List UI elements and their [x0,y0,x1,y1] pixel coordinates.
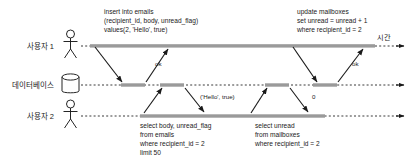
actor-stick-figure-icon-user1 [64,30,78,58]
activation-bar-user2 [140,114,325,117]
activation-bar-database-3 [265,83,289,86]
participant-label-database: 데이터베이스 [12,80,54,90]
participant-label-user2: 사용자 2 [27,112,54,121]
activation-bar-database-2 [160,83,184,86]
note-insert-line-2: (recipient_id, body, unread_flag) [104,17,198,25]
note-select-emails: select body, unread_flag from emails whe… [139,122,212,156]
message-label-select-emails-response: ('Hello', true) [200,93,235,100]
note-select-emails-line-4: limit 50 [140,149,161,156]
message-arrow-insert-request [95,47,122,82]
message-arrow-select-emails-request [144,88,162,113]
note-select-emails-line-2: from emails [140,131,175,138]
sequence-diagram: 사용자 1 데이터베이스 사용자 2 [0,0,417,163]
time-axis-label: 시간 [377,33,391,42]
note-insert-into-emails: insert into emails (recipient_id, body, … [104,8,198,34]
note-select-emails-line-3: where recipient_id = 2 [139,140,205,148]
database-cylinder-icon [62,74,79,93]
note-select-emails-line-1: select body, unread_flag [140,122,212,130]
message-arrow-select-mailboxes-request [251,88,267,113]
message-label-insert-response: ok [155,60,162,67]
note-insert-line-1: insert into emails [104,8,154,15]
note-select-mailboxes-line-3: where recipient_id = 2 [254,140,320,148]
activation-bar-database-1 [121,83,145,86]
participant-label-user1: 사용자 1 [27,42,54,51]
message-label-select-mailboxes-response: 0 [312,93,316,100]
note-select-mailboxes: select unread from mailboxes where recip… [254,122,320,148]
note-update-line-3: where recipient_id = 2 [296,26,362,34]
activation-bar-user1 [90,44,375,47]
actor-stick-figure-icon-user2 [64,100,78,128]
note-update-mailboxes: update mailboxes set unread = unread + 1… [296,8,368,34]
note-update-line-2: set unread = unread + 1 [297,17,368,24]
message-label-update-response: ok [352,60,359,67]
activation-bar-database-4 [313,83,337,86]
message-arrow-select-mailboxes-response [290,88,308,112]
message-arrow-update-request [293,47,317,82]
note-select-mailboxes-line-1: select unread [255,122,295,129]
note-insert-line-3: values(2, 'Hello', true) [104,26,167,34]
message-arrow-select-emails-response [185,88,204,112]
message-arrow-update-response [338,49,363,82]
sequence-diagram-canvas: 사용자 1 데이터베이스 사용자 2 [0,0,417,163]
note-update-line-1: update mailboxes [297,8,349,16]
note-select-mailboxes-line-2: from mailboxes [255,131,300,138]
